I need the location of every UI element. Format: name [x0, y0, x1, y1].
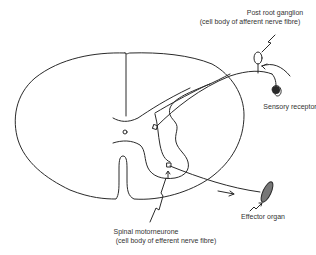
afferent-to-receptor — [272, 74, 276, 86]
efferent-arrow — [218, 191, 234, 196]
motorneurone-pointer — [150, 178, 166, 222]
efferent-nerve-fibre — [170, 166, 260, 192]
motorneuron-arrow — [166, 171, 170, 178]
afferent-arrow-head — [262, 64, 267, 69]
interneuron-cell — [152, 124, 157, 129]
effector-organ-label: Effector organ — [241, 213, 285, 221]
ganglion-pointer — [262, 35, 275, 52]
motorneurone-label-sub: (cell body of efferent nerve fibre) — [116, 237, 217, 245]
grey-matter-upper — [113, 88, 190, 121]
grey-matter-dorsal-horn — [155, 74, 230, 113]
afferent-arrow — [262, 64, 290, 76]
motorneurone-label-title: Spinal motorneurone — [114, 228, 179, 236]
reflex-arc-diagram: Post root ganglion (cell body of afferen… — [0, 0, 316, 255]
afferent-nerve-fibre — [157, 71, 272, 126]
ganglion-label-title: Post root ganglion — [247, 9, 304, 17]
effector-organ — [259, 180, 276, 203]
spinal-cord-outline — [15, 53, 244, 199]
grey-matter-lateral — [113, 84, 210, 179]
sensory-receptor-label: Sensory receptor — [263, 103, 316, 111]
effector-pointer — [250, 203, 262, 211]
ganglion-label-sub: (cell body of afferent nerve fibre) — [200, 18, 301, 26]
central-canal — [123, 130, 127, 134]
post-root-ganglion — [254, 52, 262, 64]
